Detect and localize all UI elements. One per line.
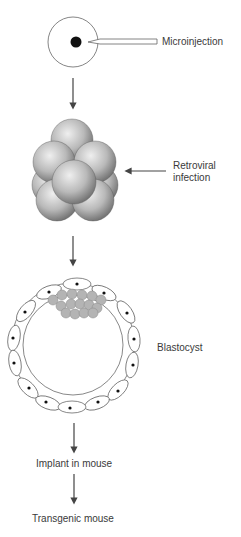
morula-cluster — [32, 119, 118, 221]
microinjection-label: Microinjection — [162, 36, 223, 48]
blastocyst — [6, 278, 141, 413]
pronucleus-dot — [71, 37, 82, 48]
retroviral-label-line2: infection — [173, 172, 210, 184]
retroviral-label-line1: Retroviral — [173, 160, 216, 172]
implant-label: Implant in mouse — [36, 458, 112, 470]
transgenic-mouse-label: Transgenic mouse — [32, 513, 114, 525]
transgenic-flow-diagram — [0, 0, 241, 537]
micropipette-icon — [88, 39, 157, 44]
blastocyst-label: Blastocyst — [157, 342, 203, 354]
